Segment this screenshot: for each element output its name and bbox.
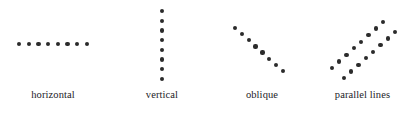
panel-horizontal: horizontal — [0, 0, 106, 114]
panel-vertical: vertical — [110, 0, 214, 114]
panel-oblique: oblique — [214, 0, 310, 114]
caption-vertical: vertical — [110, 88, 214, 102]
line-orientation-figure: horizontal vertical oblique parallel lin… — [0, 0, 415, 114]
caption-horizontal: horizontal — [0, 88, 106, 102]
caption-parallel-lines: parallel lines — [310, 88, 415, 102]
panel-parallel-lines: parallel lines — [310, 0, 415, 114]
caption-oblique: oblique — [214, 88, 310, 102]
